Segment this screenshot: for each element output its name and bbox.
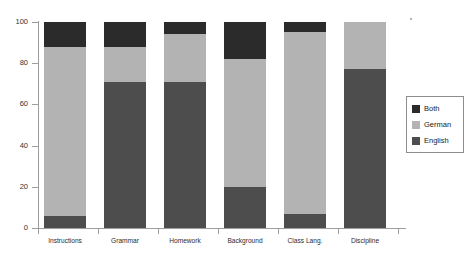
bar-segment-english[interactable]	[224, 187, 266, 228]
bar-group[interactable]	[224, 22, 266, 228]
y-axis-tick-label: 60	[2, 100, 28, 108]
x-axis-line	[38, 228, 406, 229]
legend-item-english[interactable]: English	[412, 134, 449, 147]
bar-segment-german[interactable]	[44, 47, 86, 216]
bar-group[interactable]	[284, 22, 326, 228]
bar-segment-english[interactable]	[284, 214, 326, 228]
plot-area	[38, 22, 403, 228]
bar-group[interactable]	[104, 22, 146, 228]
bar-group[interactable]	[344, 22, 386, 228]
stacked-bar-chart: 100806040200 InstructionsGrammarHomework…	[0, 0, 470, 255]
bar-segment-german[interactable]	[284, 32, 326, 213]
x-axis-tick	[158, 229, 159, 234]
bar-segment-both[interactable]	[224, 22, 266, 59]
bar-segment-english[interactable]	[44, 216, 86, 228]
bar-segment-english[interactable]	[344, 69, 386, 228]
image-artifact-speck	[410, 18, 412, 20]
y-axis-tick-label: 20	[2, 183, 28, 191]
legend-label: German	[424, 120, 451, 129]
bar-segment-german[interactable]	[224, 59, 266, 187]
chart-title	[0, 0, 390, 2]
bar-segment-german[interactable]	[164, 34, 206, 81]
y-axis-tick-label: 100	[2, 18, 28, 26]
y-axis-tick-label: 0	[2, 224, 28, 232]
legend-swatch-icon	[412, 137, 420, 145]
bar-segment-english[interactable]	[104, 82, 146, 228]
x-axis-label-discipline: Discipline	[325, 237, 405, 245]
y-axis-tick-label: 40	[2, 142, 28, 150]
x-axis-tick	[278, 229, 279, 234]
legend-label: Both	[424, 104, 439, 113]
bar-segment-english[interactable]	[164, 82, 206, 228]
bar-group[interactable]	[44, 22, 86, 228]
x-axis-tick	[338, 229, 339, 234]
bar-group[interactable]	[164, 22, 206, 228]
y-axis-tick-label: 80	[2, 59, 28, 67]
bar-segment-both[interactable]	[44, 22, 86, 47]
bar-segment-german[interactable]	[344, 22, 386, 69]
x-axis-tick	[398, 229, 399, 234]
bar-segment-both[interactable]	[104, 22, 146, 47]
chart-legend: BothGermanEnglish	[406, 96, 464, 153]
legend-label: English	[424, 136, 449, 145]
legend-item-german[interactable]: German	[412, 118, 451, 131]
legend-item-both[interactable]: Both	[412, 102, 439, 115]
x-axis-tick	[218, 229, 219, 234]
legend-swatch-icon	[412, 105, 420, 113]
bar-segment-both[interactable]	[164, 22, 206, 34]
x-axis-tick	[38, 229, 39, 234]
bar-segment-both[interactable]	[284, 22, 326, 32]
bar-segment-german[interactable]	[104, 47, 146, 82]
legend-swatch-icon	[412, 121, 420, 129]
x-axis-tick	[98, 229, 99, 234]
